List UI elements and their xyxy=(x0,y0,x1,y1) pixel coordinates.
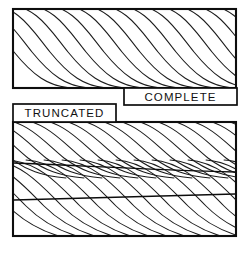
panel-complete-label: COMPLETE xyxy=(144,91,216,103)
label-box-truncated: TRUNCATED xyxy=(13,104,116,122)
technical-figure: COMPLETE xyxy=(0,0,247,253)
panel-complete-frame xyxy=(13,9,236,88)
panel-truncated: TRUNCATED xyxy=(0,104,247,238)
panel-complete: COMPLETE xyxy=(0,4,247,105)
label-box-complete: COMPLETE xyxy=(124,88,237,105)
figure-container: COMPLETE xyxy=(0,0,247,253)
panel-truncated-label: TRUNCATED xyxy=(25,107,105,119)
